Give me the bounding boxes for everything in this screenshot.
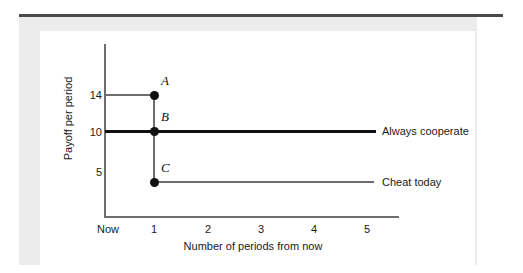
x-axis-title: Number of periods from now (108, 241, 398, 252)
x-tick-label-5: 5 (347, 224, 387, 235)
series-line-always-cooperate (105, 130, 376, 133)
y-axis-title: Payoff per period (63, 49, 74, 189)
x-tick-label-3: 3 (241, 224, 281, 235)
figure-canvas: A B C 14 10 5 Now 1 2 3 4 5 Number of pe… (0, 0, 523, 273)
data-point-label-c: C (161, 161, 170, 174)
data-point-b (150, 127, 159, 136)
x-tick-label-2: 2 (188, 224, 228, 235)
x-axis-line (104, 216, 399, 218)
series-label-cheat-today: Cheat today (382, 177, 441, 188)
y-tick-label-5: 5 (72, 167, 102, 178)
data-point-label-b: B (161, 110, 169, 123)
series-label-always-cooperate: Always cooperate (382, 126, 469, 137)
series-line-cheat-period1 (105, 94, 155, 96)
y-tick-label-14: 14 (72, 90, 102, 101)
x-tick-label-now: Now (88, 224, 128, 235)
data-point-c (150, 178, 159, 187)
series-line-cheat-today (154, 181, 374, 183)
x-tick-label-4: 4 (294, 224, 334, 235)
x-tick-label-1: 1 (134, 224, 174, 235)
y-tick-label-10: 10 (72, 127, 102, 138)
data-point-a (150, 91, 159, 100)
series-line-payoff-drop (153, 95, 155, 182)
data-point-label-a: A (161, 74, 169, 87)
